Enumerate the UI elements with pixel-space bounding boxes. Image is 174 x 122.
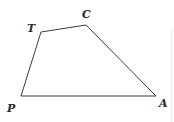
vertex-label-c: C	[82, 8, 91, 21]
quadrilateral-tcap	[21, 25, 156, 96]
quadrilateral-diagram: T C A P	[0, 0, 174, 122]
vertex-label-t: T	[27, 22, 36, 35]
vertex-label-a: A	[158, 97, 168, 110]
vertex-label-p: P	[6, 102, 16, 115]
